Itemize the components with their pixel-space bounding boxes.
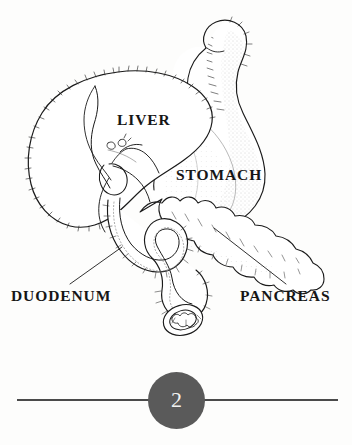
label-liver: LIVER — [117, 112, 171, 128]
page-footer: 2 — [0, 370, 352, 432]
label-stomach: STOMACH — [176, 167, 262, 183]
label-duodenum: DUODENUM — [11, 288, 111, 304]
figure-page: LIVER STOMACH DUODENUM PANCREAS 2 — [0, 0, 352, 445]
page-number-badge: 2 — [148, 372, 205, 429]
duodenum-leader-line — [70, 247, 122, 284]
page-number-text: 2 — [171, 389, 182, 413]
label-pancreas: PANCREAS — [240, 288, 330, 304]
